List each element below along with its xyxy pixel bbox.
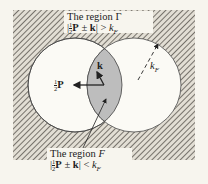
k-label: k: [97, 60, 103, 71]
region-f-condition: |12P ± k| < kF: [50, 159, 132, 175]
half-p-label: 12P: [54, 79, 64, 92]
region-gamma-title: The region Γ: [67, 11, 153, 22]
region-f-label: The region F |12P ± k| < kF: [47, 148, 132, 172]
region-gamma-condition: |12P ± k| > kF: [67, 22, 153, 38]
region-gamma-label: The region Γ |12P ± k| > kF: [64, 11, 153, 33]
region-f-title: The region F: [50, 148, 132, 159]
kf-radius-label: kF: [150, 60, 159, 76]
